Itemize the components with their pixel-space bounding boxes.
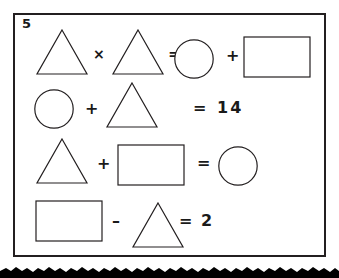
equals-operator: =	[193, 100, 206, 116]
triangle-shape	[35, 28, 89, 76]
question-number: 5	[22, 17, 31, 30]
minus-operator: –	[112, 213, 120, 229]
plus-operator: +	[226, 48, 239, 64]
number-value: 14	[217, 100, 243, 116]
worksheet-page: 5 × = +	[0, 0, 339, 278]
circle-shape	[33, 88, 75, 130]
triangle-shape	[35, 137, 89, 185]
plus-operator: +	[85, 101, 98, 117]
rectangle-shape	[35, 200, 103, 242]
question-frame: 5 × = +	[13, 13, 326, 257]
number-value: 2	[201, 213, 213, 229]
circle-shape	[217, 145, 259, 187]
equals-operator: =	[197, 155, 210, 171]
equals-operator: =	[179, 213, 192, 229]
rectangle-shape	[243, 36, 311, 78]
circle-shape	[173, 38, 215, 80]
plus-operator: +	[97, 156, 110, 172]
torn-paper-edge	[0, 262, 339, 278]
triangle-shape	[105, 81, 159, 129]
multiply-operator: ×	[93, 47, 105, 61]
triangle-shape	[111, 28, 165, 76]
rectangle-shape	[117, 144, 185, 186]
triangle-shape	[131, 201, 185, 249]
